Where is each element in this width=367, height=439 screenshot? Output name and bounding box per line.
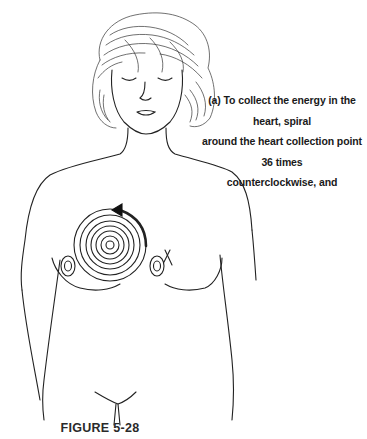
instruction-line: around the heart collection point 36 tim…: [196, 131, 367, 172]
instruction-line: counterclockwise, and: [196, 172, 367, 193]
instruction-line: (a) To collect the energy in the heart, …: [196, 90, 367, 131]
illustration: [0, 0, 367, 439]
face-drawing: [112, 70, 183, 134]
figure-caption: FIGURE 5-28: [0, 421, 200, 435]
instruction-text: (a) To collect the energy in the heart, …: [196, 90, 367, 193]
